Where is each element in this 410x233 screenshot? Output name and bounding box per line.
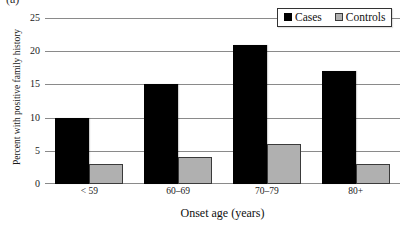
bars	[311, 18, 400, 184]
bars	[134, 18, 223, 184]
x-axis-tick-label: < 59	[45, 186, 134, 196]
legend-item-cases[interactable]: Cases	[284, 11, 322, 23]
bar-controls[interactable]	[178, 157, 212, 184]
bars	[223, 18, 312, 184]
plot-area	[45, 18, 400, 184]
filled-square-icon	[284, 13, 292, 21]
legend-label: Cases	[295, 11, 322, 23]
x-axis-title: Onset age (years)	[45, 206, 400, 221]
x-axis-tick-labels: < 5960–6970–7980+	[45, 186, 400, 196]
bar-group	[45, 18, 134, 184]
y-axis-tick-label: 20	[18, 46, 40, 56]
bar-controls[interactable]	[89, 164, 123, 184]
bar-cases[interactable]	[55, 118, 89, 184]
x-axis-tick-label: 70–79	[223, 186, 312, 196]
bar-group	[311, 18, 400, 184]
bar-cases[interactable]	[233, 45, 267, 184]
figure-container: (a) Percent with positive family history…	[0, 0, 410, 233]
filled-square-icon	[335, 13, 343, 21]
bars	[45, 18, 134, 184]
x-axis-tick-label: 80+	[311, 186, 400, 196]
bar-controls[interactable]	[267, 144, 301, 184]
y-axis-tick-labels: 0510152025	[18, 0, 40, 233]
y-axis-tick-label: 25	[18, 13, 40, 23]
bar-cases[interactable]	[144, 84, 178, 184]
legend-label: Controls	[346, 11, 386, 23]
y-axis-tick-label: 0	[18, 179, 40, 189]
y-axis-tick-label: 10	[18, 113, 40, 123]
bar-group	[223, 18, 312, 184]
y-axis-tick-label: 15	[18, 79, 40, 89]
bar-cases[interactable]	[322, 71, 356, 184]
bar-controls[interactable]	[356, 164, 390, 184]
chart-legend: CasesControls	[277, 8, 392, 27]
bar-group	[134, 18, 223, 184]
legend-item-controls[interactable]: Controls	[335, 11, 386, 23]
bar-groups	[45, 18, 400, 184]
x-axis-tick-label: 60–69	[134, 186, 223, 196]
y-axis-tick-label: 5	[18, 146, 40, 156]
